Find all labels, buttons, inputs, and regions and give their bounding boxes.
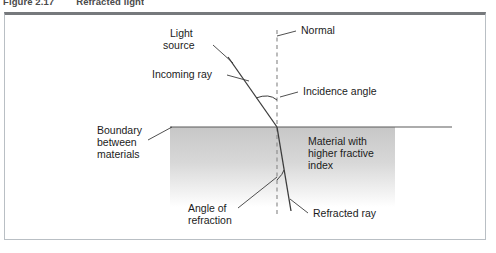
- label-incoming-ray: Incoming ray: [152, 68, 213, 80]
- label-angle-of-refraction-line2: refraction: [188, 214, 232, 226]
- boundary-leader: [148, 127, 172, 140]
- refraction-diagram: Light source Normal Incoming ray Inciden…: [0, 0, 496, 253]
- label-material-line2: higher fractive: [308, 147, 374, 159]
- label-refracted-ray: Refracted ray: [313, 207, 377, 219]
- label-material-line1: Material with: [308, 135, 367, 147]
- label-boundary-line1: Boundary: [97, 124, 143, 136]
- light-source-leader: [213, 45, 233, 63]
- normal-leader: [277, 31, 296, 36]
- label-material-line3: index: [308, 159, 334, 171]
- incidence-angle-arc: [256, 96, 277, 100]
- label-boundary-line2: between: [97, 136, 137, 148]
- label-incidence-angle: Incidence angle: [303, 85, 377, 97]
- label-boundary-line3: materials: [97, 148, 140, 160]
- incoming-ray-leader: [227, 75, 249, 81]
- figure-page: Figure 2.17 Refracted light: [0, 0, 496, 253]
- label-normal: Normal: [301, 24, 335, 36]
- label-light-source-line1: Light: [170, 27, 193, 39]
- incidence-angle-leader: [280, 92, 298, 97]
- incoming-ray-line: [228, 57, 277, 127]
- label-light-source-line2: source: [163, 39, 195, 51]
- label-angle-of-refraction-line1: Angle of: [188, 202, 227, 214]
